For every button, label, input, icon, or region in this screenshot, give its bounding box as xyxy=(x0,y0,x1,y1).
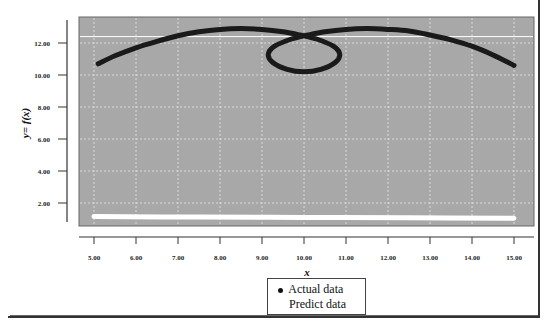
y-axis-ticks: 2.004.006.008.0010.0012.00 xyxy=(34,40,67,208)
y-tick-label: 2.00 xyxy=(38,200,51,208)
dot-marker-icon xyxy=(274,282,286,296)
y-tick-label: 12.00 xyxy=(34,40,50,48)
legend-label: Predict data xyxy=(289,297,346,311)
x-tick-label: 12.00 xyxy=(380,254,396,262)
legend: Actual data Predict data xyxy=(267,278,366,315)
y-axis-title: y= f(x) xyxy=(19,108,32,140)
legend-item-predict: Predict data xyxy=(274,297,346,311)
y-tick-label: 6.00 xyxy=(38,136,51,144)
x-tick-label: 10.00 xyxy=(296,254,312,262)
x-tick-label: 15.00 xyxy=(506,254,522,262)
x-axis-ticks: 5.006.007.008.009.0010.0011.0012.0013.00… xyxy=(88,237,523,262)
x-tick-label: 13.00 xyxy=(422,254,438,262)
legend-item-actual: Actual data xyxy=(274,282,343,296)
predict-data-line xyxy=(94,217,514,219)
x-tick-label: 9.00 xyxy=(256,254,269,262)
y-tick-label: 8.00 xyxy=(38,104,51,112)
x-tick-label: 8.00 xyxy=(214,254,227,262)
y-tick-label: 4.00 xyxy=(38,168,51,176)
legend-label: Actual data xyxy=(288,282,343,296)
x-tick-label: 7.00 xyxy=(172,254,185,262)
x-tick-label: 6.00 xyxy=(130,254,143,262)
x-axis-title: x xyxy=(303,266,310,278)
x-tick-label: 14.00 xyxy=(464,254,480,262)
y-tick-label: 10.00 xyxy=(34,72,50,80)
x-tick-label: 5.00 xyxy=(88,254,101,262)
plot-area xyxy=(79,17,534,226)
x-tick-label: 11.00 xyxy=(338,254,354,262)
